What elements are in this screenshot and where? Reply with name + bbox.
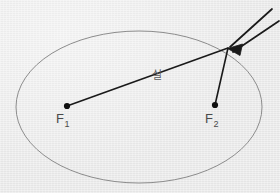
- focus-label-f2-letter: F: [205, 111, 213, 126]
- string-segment-f1: [67, 48, 228, 106]
- string-segment-f2: [215, 48, 228, 105]
- string-label: 실: [152, 70, 162, 81]
- pencil-upper-edge: [230, 9, 272, 47]
- focus-label-f1-subscript: 1: [64, 119, 69, 129]
- focus-label-f2: F2: [205, 112, 219, 129]
- figure-canvas: [0, 0, 280, 193]
- focus-label-f2-subscript: 2: [213, 119, 218, 129]
- ellipse-construction-figure: F1 F2 실: [0, 0, 280, 193]
- focus-label-f1-letter: F: [56, 111, 64, 126]
- focus-label-f1: F1: [56, 112, 70, 129]
- focus-dot-f2: [212, 102, 218, 108]
- focus-dot-f1: [64, 103, 70, 109]
- pencil: [228, 9, 280, 56]
- pencil-tip: [228, 44, 243, 56]
- ellipse-curve: [16, 31, 262, 183]
